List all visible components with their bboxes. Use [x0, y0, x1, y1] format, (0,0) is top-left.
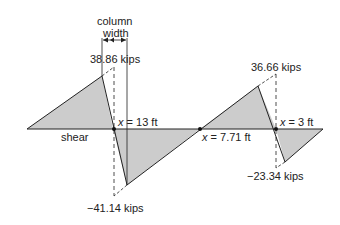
zero2-value: = 7.71 ft [208, 131, 251, 143]
dashed-extension-right-top [258, 74, 276, 86]
zero-crossing-dot-1 [112, 127, 116, 131]
zero3-label: x = 3 ft [280, 116, 313, 128]
zero2-label: x = 7.71 ft [202, 131, 251, 143]
zero-crossing-dot-3 [274, 127, 278, 131]
column-label-line1: column [97, 15, 132, 27]
zero1-value: = 13 ft [124, 116, 158, 128]
shear-label: shear [61, 131, 89, 143]
shear-diagram [0, 0, 340, 225]
zero3-value: = 3 ft [286, 116, 314, 128]
dashed-extension-left-bottom [114, 185, 127, 196]
zero1-label: x = 13 ft [118, 116, 157, 128]
column-label-line2: width [103, 27, 129, 39]
shear-region-left-positive [27, 76, 113, 129]
dashed-extension-left-top [102, 67, 114, 76]
trough-left-label: −41.14 kips [87, 202, 144, 214]
trough-right-label: −23.34 kips [247, 170, 304, 182]
peak-left-label: 38.86 kips [90, 53, 140, 65]
shear-region-mid-positive [200, 86, 276, 129]
dashed-extension-right-bottom [276, 162, 285, 168]
peak-right-label: 36.66 kips [251, 61, 301, 73]
